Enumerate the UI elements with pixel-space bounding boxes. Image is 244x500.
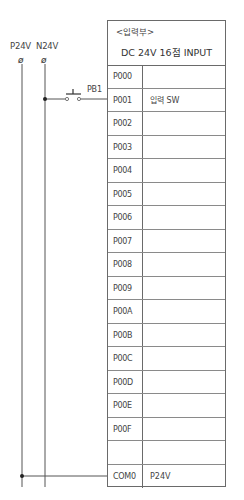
io-address: P001 <box>108 89 143 112</box>
io-row: P00D <box>108 371 225 395</box>
io-row: P002 <box>108 112 225 136</box>
module-title: DC 24V 16점 INPUT <box>108 45 225 59</box>
n24v-terminal-icon: ø <box>41 55 47 65</box>
io-address: P00E <box>108 394 143 417</box>
pb1-label: PB1 <box>87 85 102 94</box>
io-row: P004 <box>108 159 225 183</box>
switch-contact-right <box>77 97 80 100</box>
io-row: P00B <box>108 324 225 348</box>
io-address: COM0 <box>108 465 143 489</box>
io-description: P24V <box>150 465 170 489</box>
module-header: <입력부> DC 24V 16점 INPUT <box>108 21 225 66</box>
io-address: P003 <box>108 136 143 159</box>
io-address: P006 <box>108 206 143 229</box>
io-row: P001입력 SW <box>108 89 225 113</box>
junction-dot-p24v <box>20 474 24 478</box>
io-address: P005 <box>108 183 143 206</box>
io-row: P000 <box>108 65 225 89</box>
io-address: P00D <box>108 371 143 394</box>
io-address <box>108 441 143 464</box>
io-address: P008 <box>108 253 143 276</box>
n24v-label: N24V <box>36 41 58 51</box>
input-module: <입력부> DC 24V 16점 INPUT P000P001입력 SWP002… <box>107 20 226 487</box>
io-row: P00C <box>108 347 225 371</box>
io-row: P009 <box>108 277 225 301</box>
io-address: P00B <box>108 324 143 347</box>
junction-dot-n24v <box>43 97 47 101</box>
io-row: P007 <box>108 230 225 254</box>
io-row: P003 <box>108 136 225 160</box>
io-address: P000 <box>108 65 143 88</box>
io-address: P004 <box>108 159 143 182</box>
io-address: P00A <box>108 300 143 323</box>
io-row: P00A <box>108 300 225 324</box>
section-label: <입력부> <box>116 25 154 37</box>
io-description: 입력 SW <box>150 89 180 112</box>
io-row: P006 <box>108 206 225 230</box>
p24v-label: P24V <box>10 41 31 51</box>
p24v-terminal-icon: ø <box>18 55 24 65</box>
io-row: P005 <box>108 183 225 207</box>
io-address: P007 <box>108 230 143 253</box>
io-row: COM0P24V <box>108 465 225 489</box>
io-row: P00F <box>108 418 225 442</box>
io-address: P002 <box>108 112 143 135</box>
io-address: P00F <box>108 418 143 441</box>
io-row: P00E <box>108 394 225 418</box>
io-row: P008 <box>108 253 225 277</box>
io-address: P009 <box>108 277 143 300</box>
io-row <box>108 441 225 465</box>
io-table: P000P001입력 SWP002P003P004P005P006P007P00… <box>108 65 225 488</box>
io-address: P00C <box>108 347 143 370</box>
switch-contact-left <box>65 97 68 100</box>
